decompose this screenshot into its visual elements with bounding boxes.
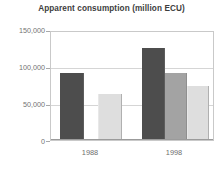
bar-chart-figure: Apparent consumption (million ECU) 150,0…	[0, 0, 223, 186]
y-axis-tick-label-100000: 100,000	[19, 64, 45, 71]
y-axis-tick-mark-0	[46, 141, 50, 142]
plot-area	[50, 31, 214, 141]
x-axis-tick-label-1998: 1998	[152, 148, 196, 157]
bar-1998-series-2	[165, 73, 187, 139]
x-axis-tick-label-1988: 1988	[68, 148, 112, 157]
y-axis-tick-label-50000: 50,000	[23, 101, 45, 108]
bar-1998-series-3	[187, 86, 209, 139]
gridline-100000	[51, 68, 213, 69]
x-axis-baseline	[51, 139, 213, 140]
chart-title: Apparent consumption (million ECU)	[0, 4, 223, 13]
bar-1988-series-3	[98, 94, 122, 139]
y-axis-tick-label-0: 0	[41, 138, 45, 145]
y-axis-tick-label-150000: 150,000	[19, 27, 45, 34]
bar-1998-series-1	[142, 48, 165, 139]
bar-1988-series-1	[60, 73, 84, 139]
